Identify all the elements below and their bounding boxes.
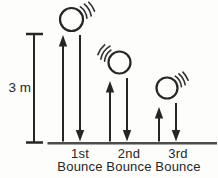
bounce-labels: 1st Bounce 2nd Bounce 3rd Bounce [57,146,200,174]
bounce-2-group [98,45,131,142]
up-arrow-icon [155,107,163,142]
height-scale: 3 m [8,34,43,143]
ball-icon [60,8,83,31]
bounce-3-group [155,72,188,141]
bounce-3-word: Bounce [155,159,200,174]
down-arrow-icon [172,103,180,142]
ball-icon [157,78,178,99]
ball-icon [109,52,131,74]
bounce-1-group [59,2,95,141]
bounce-diagram-canvas: 3 m [0,0,218,178]
up-arrow-icon [59,35,67,142]
down-arrow-icon [123,78,131,142]
up-arrow-icon [106,81,114,142]
down-arrow-icon [76,35,84,142]
height-scale-label: 3 m [8,80,31,95]
bounce-1-word: Bounce [57,159,102,174]
bounce-diagram: 3 m [0,0,218,178]
bounce-2-word: Bounce [106,159,151,174]
